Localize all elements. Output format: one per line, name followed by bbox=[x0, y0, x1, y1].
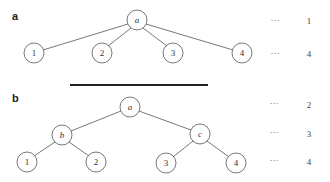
node-leaf-1: 1 bbox=[17, 152, 37, 172]
node-b: b bbox=[52, 125, 72, 145]
edge-a-2 bbox=[108, 28, 131, 46]
level-dots: ··· bbox=[270, 127, 279, 137]
edge-a-1 bbox=[43, 24, 128, 50]
panel-a-label: a bbox=[12, 10, 19, 22]
level-count: 4 bbox=[307, 49, 312, 59]
node-a-root: a bbox=[120, 97, 140, 117]
level-dots: ··· bbox=[270, 98, 279, 108]
svg-text:c: c bbox=[198, 129, 202, 139]
node-a-root: a bbox=[127, 10, 147, 30]
node-leaf-2: 2 bbox=[86, 152, 106, 172]
level-count: 2 bbox=[307, 100, 312, 110]
level-count: 3 bbox=[307, 129, 312, 139]
edge-a-c bbox=[139, 111, 191, 130]
svg-text:a: a bbox=[135, 15, 140, 25]
edge-b-1 bbox=[34, 142, 55, 156]
edge-c-4 bbox=[207, 141, 229, 157]
panel-b: b a b c 1 2 3 bbox=[12, 92, 312, 173]
level-count: 4 bbox=[307, 157, 312, 167]
node-leaf-4: 4 bbox=[226, 153, 246, 173]
node-leaf-3: 3 bbox=[156, 153, 176, 173]
svg-text:a: a bbox=[128, 102, 133, 112]
node-leaf-4: 4 bbox=[232, 43, 252, 63]
svg-text:2: 2 bbox=[94, 157, 99, 167]
panel-b-label: b bbox=[12, 92, 19, 104]
edge-a-4 bbox=[146, 24, 233, 50]
node-leaf-2: 2 bbox=[92, 43, 112, 63]
node-c: c bbox=[190, 124, 210, 144]
level-count: 1 bbox=[307, 16, 312, 26]
svg-text:4: 4 bbox=[234, 158, 239, 168]
node-leaf-3: 3 bbox=[163, 43, 183, 63]
level-dots: ··· bbox=[271, 48, 280, 58]
svg-text:1: 1 bbox=[32, 48, 37, 58]
tree-diagram: a a 1 2 3 4 ··· 1 ··· 4 bbox=[0, 0, 330, 182]
svg-text:b: b bbox=[60, 130, 65, 140]
edge-a-b bbox=[71, 111, 121, 131]
level-dots: ··· bbox=[271, 15, 280, 25]
svg-text:4: 4 bbox=[240, 48, 245, 58]
edge-c-3 bbox=[173, 141, 193, 157]
svg-text:3: 3 bbox=[171, 48, 176, 58]
panel-a: a a 1 2 3 4 ··· 1 ··· 4 bbox=[12, 10, 312, 63]
edge-a-3 bbox=[143, 28, 167, 46]
level-dots: ··· bbox=[270, 155, 279, 165]
edge-b-2 bbox=[69, 142, 89, 156]
node-leaf-1: 1 bbox=[24, 43, 44, 63]
svg-text:3: 3 bbox=[164, 158, 169, 168]
svg-text:1: 1 bbox=[25, 157, 30, 167]
svg-text:2: 2 bbox=[100, 48, 105, 58]
